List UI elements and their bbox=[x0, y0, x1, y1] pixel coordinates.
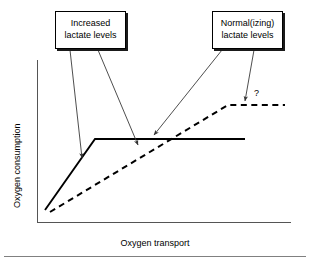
callout-increased-line1: Increased bbox=[56, 18, 125, 30]
callout-increased-line2: lactate levels bbox=[56, 30, 125, 42]
curve-increased-lactate bbox=[45, 139, 245, 210]
callout-normalizing-lactate: Normal(izing) lactate levels bbox=[212, 11, 283, 49]
arrow-normalizing-to-solid bbox=[154, 50, 222, 135]
y-axis-title: Oxygen consumption bbox=[12, 194, 22, 208]
callout-normalizing-line2: lactate levels bbox=[213, 30, 282, 42]
question-mark-annotation: ? bbox=[254, 88, 259, 98]
callout-increased-lactate: Increased lactate levels bbox=[55, 11, 126, 49]
axis-lines bbox=[37, 60, 291, 223]
figure-container: Increased lactate levels Normal(izing) l… bbox=[0, 0, 310, 268]
x-axis-title: Oxygen transport bbox=[0, 238, 310, 248]
callout-normalizing-line1: Normal(izing) bbox=[213, 18, 282, 30]
curve-normalizing-lactate bbox=[50, 105, 285, 212]
arrow-normalizing-to-dashed bbox=[245, 50, 254, 101]
arrow-increased-to-solid bbox=[70, 50, 82, 158]
footer-divider bbox=[4, 256, 306, 257]
arrow-increased-to-dashed bbox=[98, 50, 138, 145]
